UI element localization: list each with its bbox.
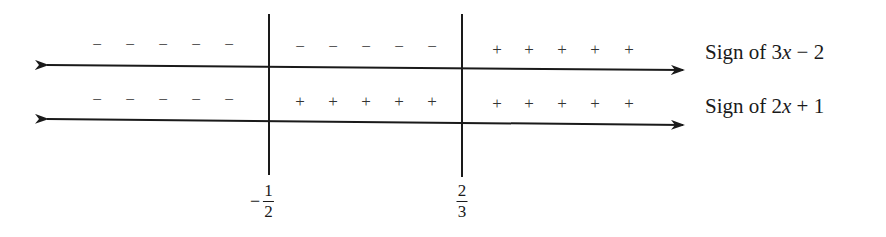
numerator: 1 <box>264 182 273 200</box>
sign-symbol: + <box>356 93 376 110</box>
sign-symbol: + <box>552 41 572 58</box>
critical-point-two-thirds: 2 3 <box>457 182 468 221</box>
sign-symbol: − <box>186 36 206 53</box>
label-rest: + 1 <box>791 94 824 118</box>
label-prefix: Sign of <box>705 40 772 64</box>
sign-symbol: − <box>186 91 206 108</box>
row-label-2x-plus-1: Sign of 2x + 1 <box>705 96 824 117</box>
sign-symbol: − <box>153 91 173 108</box>
numerator: 2 <box>458 182 467 200</box>
sign-symbol: + <box>422 93 442 110</box>
sign-symbol: − <box>120 36 140 53</box>
label-coef: 2 <box>772 94 783 118</box>
sign-symbol: − <box>153 36 173 53</box>
sign-symbol: − <box>323 38 343 55</box>
sign-symbol: − <box>87 91 107 108</box>
denominator: 2 <box>264 203 273 221</box>
denominator: 3 <box>458 203 467 221</box>
label-var: x <box>782 94 791 118</box>
number-line-row-1 <box>47 65 683 70</box>
number-line-row-2 <box>47 119 683 125</box>
sign-symbol: + <box>619 95 639 112</box>
sign-symbol: − <box>389 38 409 55</box>
sign-symbol: + <box>552 95 572 112</box>
sign-symbol: + <box>519 95 539 112</box>
minus-sign: − <box>250 191 260 212</box>
label-coef: 3 <box>772 40 783 64</box>
label-prefix: Sign of <box>705 94 772 118</box>
sign-symbol: + <box>585 95 605 112</box>
sign-symbol: + <box>619 41 639 58</box>
label-rest: − 2 <box>791 40 824 64</box>
sign-symbol: + <box>519 41 539 58</box>
sign-symbol: + <box>487 95 507 112</box>
sign-symbol: + <box>487 41 507 58</box>
sign-symbol: − <box>219 91 239 108</box>
sign-symbol: − <box>290 38 310 55</box>
sign-symbol: + <box>389 93 409 110</box>
sign-symbol: − <box>219 36 239 53</box>
sign-symbol: + <box>585 41 605 58</box>
row-label-3x-minus-2: Sign of 3x − 2 <box>705 42 824 63</box>
sign-symbol: − <box>356 38 376 55</box>
sign-symbol: + <box>290 93 310 110</box>
sign-symbol: − <box>120 91 140 108</box>
sign-symbol: + <box>323 93 343 110</box>
sign-symbol: − <box>422 38 442 55</box>
critical-point-neg-half: − 1 2 <box>250 182 274 221</box>
label-var: x <box>782 40 791 64</box>
sign-symbol: − <box>87 36 107 53</box>
